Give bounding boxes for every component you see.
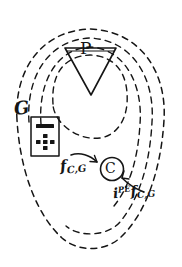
flux-in-superscript: PE — [117, 183, 130, 194]
label-flux-in: iPEfC,G — [112, 182, 155, 202]
dashed-contour-outer-1 — [17, 29, 164, 249]
figure-canvas: G P C fC,G iPEfC,G — [0, 0, 182, 267]
label-flux-out: fC,G — [59, 157, 87, 176]
label-collector-C: C — [105, 161, 116, 175]
device-box-minus-bar — [36, 124, 54, 128]
flux-out-subscript: C,G — [66, 162, 87, 175]
flux-in-subscript: C,G — [136, 187, 155, 200]
label-source-P: P — [80, 40, 91, 57]
dashed-contour-3 — [41, 47, 141, 206]
dashed-contour-inner-4 — [53, 55, 127, 138]
device-box-plus-dots — [36, 134, 55, 150]
label-ground-G: G — [13, 98, 30, 118]
